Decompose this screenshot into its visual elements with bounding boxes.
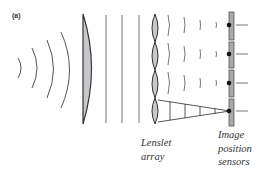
incoming-wavefronts — [18, 32, 70, 108]
caption-line: Lenslet — [141, 136, 171, 150]
focusing-wavefronts — [168, 15, 217, 94]
lenslet-array — [152, 14, 158, 124]
plane-wavefronts — [106, 15, 139, 123]
collimating-lens — [83, 14, 92, 124]
lenslet-array-caption: Lenslet array — [141, 136, 171, 163]
image-position-sensors — [227, 12, 248, 126]
caption-line: Image — [218, 128, 252, 142]
image-position-sensors-caption: Image position sensors — [218, 128, 252, 169]
caption-line: position — [218, 142, 252, 156]
caption-line: sensors — [218, 155, 252, 169]
panel-label: (a) — [12, 12, 21, 19]
ray-cone — [158, 100, 230, 122]
caption-line: array — [141, 150, 171, 164]
